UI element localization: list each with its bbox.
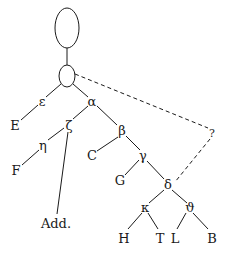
edge-beta-C [97, 137, 118, 151]
node-eta: η [39, 138, 47, 153]
edge-theta-B [193, 213, 208, 229]
edge-beta-gamma [126, 136, 140, 150]
node-kappa: κ [141, 200, 149, 215]
node-B: B [207, 231, 217, 246]
node-unknown: ? [209, 127, 215, 140]
edge-kappa-T [148, 213, 158, 229]
node-H: H [118, 231, 129, 246]
node-delta: δ [164, 177, 172, 192]
edge-gamma-delta [147, 161, 164, 179]
node-epsilon: ε [39, 94, 46, 109]
node-alpha: α [88, 94, 97, 109]
node-theta: ϑ [185, 200, 194, 215]
edge-alpha-zeta [73, 106, 88, 119]
node-zeta: ζ [65, 118, 72, 133]
edge-hyp-epsilon [46, 84, 61, 97]
node-gamma: γ [139, 148, 147, 163]
edge-hyp-alpha [73, 84, 88, 97]
node-C: C [87, 148, 97, 163]
edge-theta-L [177, 213, 186, 229]
node-G: G [115, 173, 125, 188]
node-L: L [171, 231, 180, 246]
node-E: E [10, 118, 20, 133]
edge-zeta-eta [48, 128, 64, 140]
edge-epsilon-E [21, 105, 38, 120]
edge-delta-kappa [149, 190, 164, 203]
edge-alpha-beta [97, 106, 117, 125]
node-F: F [11, 163, 20, 178]
dashed-edge-unknown-delta [175, 139, 210, 182]
node-T: T [156, 231, 165, 246]
node-beta: β [118, 123, 126, 138]
edge-kappa-H [128, 213, 142, 229]
stemma-diagram: ε α E ζ η β F C γ G δ κ ϑ H T L B Add. ? [0, 0, 228, 255]
edge-zeta-Add [57, 132, 68, 214]
edge-gamma-G [125, 160, 139, 175]
node-Add: Add. [40, 216, 71, 231]
hyparchetype-oval [59, 65, 75, 87]
edge-eta-F [22, 150, 39, 165]
archetype-oval [55, 8, 79, 48]
